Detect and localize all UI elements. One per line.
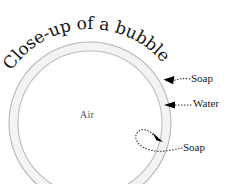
label-soap-inner: Soap	[183, 142, 205, 153]
center-label-air: Air	[80, 110, 94, 120]
label-soap-outer: Soap	[191, 73, 213, 84]
soap-outer-arrowhead	[164, 76, 175, 84]
page-title-char: o	[76, 13, 88, 34]
soap-outer-callout	[164, 76, 191, 84]
label-water: Water	[193, 98, 219, 109]
bubble-diagram-figure: Close-up of a bubble Air Soap Water Soap	[0, 0, 232, 184]
